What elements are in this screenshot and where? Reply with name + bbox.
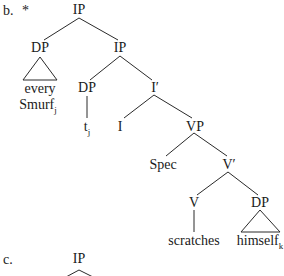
dp-object-himself: himselfk	[237, 233, 284, 249]
node-v-head: V	[189, 195, 199, 211]
verb-scratches: scratches	[168, 233, 219, 249]
node-vp: VP	[186, 119, 204, 135]
node-dp-subject: DP	[31, 40, 49, 56]
example-marker-c: c.	[3, 252, 13, 268]
ungrammatical-asterisk: *	[22, 3, 29, 19]
trace-index-j: j	[88, 127, 91, 137]
node-i-bar: I′	[151, 80, 159, 96]
node-i-head: I	[118, 119, 123, 135]
dp-subject-word-every: every	[24, 81, 55, 97]
example-marker-b: b.	[3, 3, 14, 19]
index-k: k	[279, 241, 284, 251]
trace: tj	[84, 119, 90, 135]
node-v-bar: V′	[222, 157, 235, 173]
node-ip-root: IP	[73, 2, 85, 18]
node-spec: Spec	[149, 157, 176, 173]
syntax-tree-diagram: b. * IP DP IP every Smurfj DP tj I′ I VP…	[0, 0, 284, 276]
index-j: j	[54, 105, 57, 115]
node-ip-inner: IP	[114, 40, 126, 56]
node-ip-root-c: IP	[73, 251, 85, 267]
node-dp-object: DP	[251, 195, 269, 211]
node-dp-trace: DP	[78, 80, 96, 96]
dp-subject-word-smurf: Smurfj	[19, 97, 57, 113]
